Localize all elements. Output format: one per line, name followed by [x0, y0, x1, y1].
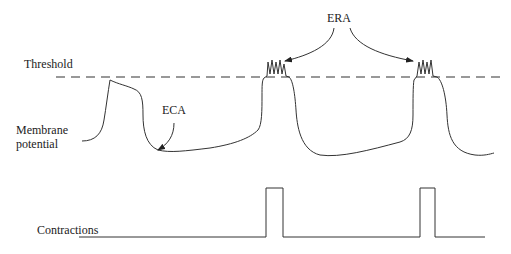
membrane-potential-trace	[82, 60, 494, 156]
era-arrow-right	[350, 28, 413, 61]
era-arrow-left	[285, 28, 334, 61]
contractions-trace	[79, 188, 485, 237]
eca-arrow	[158, 123, 174, 150]
diagram-canvas	[0, 0, 511, 254]
